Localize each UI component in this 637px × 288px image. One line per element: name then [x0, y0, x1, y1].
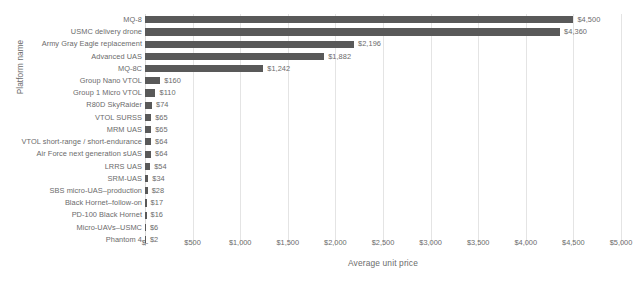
plot-area: MQ-8$4,500USMC delivery drone$4,360Army …	[145, 14, 621, 246]
bar-row: MRM UAS$65	[145, 124, 621, 136]
bar[interactable]	[145, 212, 147, 219]
category-label: R80D SkyRaider	[86, 99, 142, 111]
bar-row: Army Gray Eagle replacement$2,196	[145, 38, 621, 50]
value-label: $17	[151, 197, 163, 209]
category-label: MRM UAS	[107, 124, 142, 136]
bar[interactable]	[145, 28, 560, 35]
category-label: Black Hornet–follow-on	[65, 197, 142, 209]
bar[interactable]	[145, 16, 573, 23]
y-axis-title: Platform name	[16, 17, 30, 117]
bar-row: Air Force next generation sUAS$64	[145, 148, 621, 160]
bar[interactable]	[145, 151, 151, 158]
bar-row: Group Nano VTOL$160	[145, 75, 621, 87]
category-label: PD-100 Black Hornet	[72, 209, 142, 221]
category-label: LRRS UAS	[105, 161, 142, 173]
value-label: $64	[155, 136, 167, 148]
category-label: Micro-UAVs–USMC	[77, 222, 143, 234]
bar-row: Group 1 Micro VTOL$110	[145, 87, 621, 99]
category-label: MQ-8C	[118, 63, 142, 75]
x-axis-title: Average unit price	[145, 258, 621, 268]
category-label: USMC delivery drone	[71, 26, 142, 38]
bar-row: Micro-UAVs–USMC$6	[145, 222, 621, 234]
bar[interactable]	[145, 102, 152, 109]
bar[interactable]	[145, 41, 354, 48]
bar-row: MQ-8$4,500	[145, 14, 621, 26]
bar-row: USMC delivery drone$4,360	[145, 26, 621, 38]
bar[interactable]	[145, 199, 147, 206]
bar[interactable]	[145, 138, 151, 145]
bar[interactable]	[145, 163, 150, 170]
value-label: $54	[154, 161, 166, 173]
value-label: $74	[156, 99, 168, 111]
category-label: Air Force next generation sUAS	[37, 148, 142, 160]
gridline	[621, 14, 622, 246]
category-label: Group Nano VTOL	[80, 75, 142, 87]
value-label: $65	[155, 124, 167, 136]
bar[interactable]	[145, 77, 160, 84]
value-label: $4,360	[564, 26, 587, 38]
bar-row: VTOL short-range / short-endurance$64	[145, 136, 621, 148]
value-label: $34	[152, 173, 164, 185]
x-axis-tick-label: $5,000	[591, 238, 637, 247]
value-label: $64	[155, 148, 167, 160]
bar[interactable]	[145, 114, 151, 121]
bar-row: PD-100 Black Hornet$16	[145, 209, 621, 221]
category-label: Advanced UAS	[91, 51, 142, 63]
bar-row: LRRS UAS$54	[145, 161, 621, 173]
bar-row: SRM-UAS$34	[145, 173, 621, 185]
category-label: VTOL SURSS	[95, 112, 142, 124]
bar-row: SBS micro-UAS–production$28	[145, 185, 621, 197]
value-label: $2,196	[358, 38, 381, 50]
bar-row: R80D SkyRaider$74	[145, 99, 621, 111]
category-label: SBS micro-UAS–production	[50, 185, 142, 197]
bar-row: MQ-8C$1,242	[145, 63, 621, 75]
category-label: Army Gray Eagle replacement	[42, 38, 142, 50]
value-label: $28	[152, 185, 164, 197]
category-label: MQ-8	[123, 14, 142, 26]
bar[interactable]	[145, 65, 263, 72]
bar[interactable]	[145, 89, 155, 96]
category-label: Group 1 Micro VTOL	[73, 87, 142, 99]
value-label: $65	[155, 112, 167, 124]
value-label: $110	[159, 87, 175, 99]
category-label: SRM-UAS	[108, 173, 142, 185]
value-label: $16	[151, 209, 163, 221]
bar[interactable]	[145, 224, 146, 231]
bar-row: Black Hornet–follow-on$17	[145, 197, 621, 209]
value-label: $1,242	[267, 63, 290, 75]
value-label: $4,500	[577, 14, 600, 26]
bar[interactable]	[145, 175, 148, 182]
bar-row: VTOL SURSS$65	[145, 112, 621, 124]
bar[interactable]	[145, 126, 151, 133]
value-label: $160	[164, 75, 181, 87]
bar-row: Advanced UAS$1,882	[145, 51, 621, 63]
bar[interactable]	[145, 187, 148, 194]
category-label: VTOL short-range / short-endurance	[22, 136, 142, 148]
value-label: $1,882	[328, 51, 351, 63]
bar[interactable]	[145, 53, 324, 60]
value-label: $6	[150, 222, 158, 234]
